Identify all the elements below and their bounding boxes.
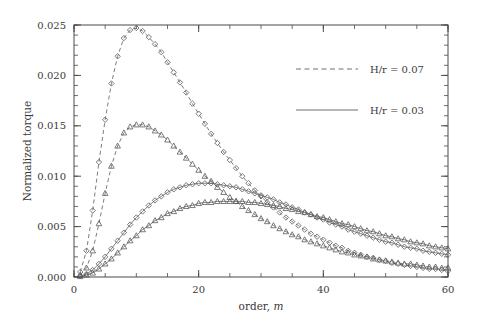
series-marker-triangle bbox=[327, 245, 333, 250]
y-axis-title: Normalized torque bbox=[21, 101, 33, 202]
x-tick-label: 0 bbox=[71, 284, 77, 295]
x-axis-title-plain: order, bbox=[239, 300, 274, 312]
x-tick-label: 60 bbox=[442, 284, 455, 295]
series-marker-triangle bbox=[134, 122, 140, 127]
x-tick-label: 20 bbox=[192, 284, 205, 295]
y-tick-label: 0.010 bbox=[37, 171, 66, 182]
y-tick-label: 0.025 bbox=[37, 20, 66, 31]
legend-entry: H/r = 0.07 bbox=[296, 64, 424, 75]
series-marker-triangle bbox=[165, 137, 171, 142]
y-tick-label: 0.015 bbox=[37, 120, 66, 131]
x-tick-label: 40 bbox=[317, 284, 330, 295]
tick-labels-layer: 02040600.0000.0050.0100.0150.0200.025 bbox=[37, 20, 454, 296]
series-marker-diamond bbox=[196, 111, 201, 116]
series-marker-triangle bbox=[96, 221, 102, 226]
legend-entry: H/r = 0.03 bbox=[296, 105, 424, 116]
chart-legend: H/r = 0.07H/r = 0.03 bbox=[296, 64, 424, 116]
y-tick-label: 0.000 bbox=[37, 272, 66, 283]
y-tick-label: 0.005 bbox=[37, 221, 66, 232]
series-marker-triangle bbox=[395, 260, 401, 265]
series-marker-triangle bbox=[221, 189, 227, 194]
plot-canvas: 02040600.0000.0050.0100.0150.0200.025 H/… bbox=[0, 0, 477, 321]
y-tick-label: 0.020 bbox=[37, 70, 66, 81]
chart-figure: 02040600.0000.0050.0100.0150.0200.025 H/… bbox=[0, 0, 477, 321]
legend-label: H/r = 0.07 bbox=[370, 64, 424, 75]
legend-label: H/r = 0.03 bbox=[370, 105, 424, 116]
series-marker-diamond bbox=[171, 70, 176, 75]
series-marker-triangle bbox=[321, 243, 327, 248]
data-series bbox=[77, 198, 450, 278]
series-marker-diamond bbox=[215, 140, 220, 145]
x-axis-title-symbol: m bbox=[273, 300, 283, 312]
series-marker-triangle bbox=[127, 124, 133, 129]
x-axis-title: order, m bbox=[239, 300, 284, 312]
series-marker-triangle bbox=[240, 204, 246, 209]
